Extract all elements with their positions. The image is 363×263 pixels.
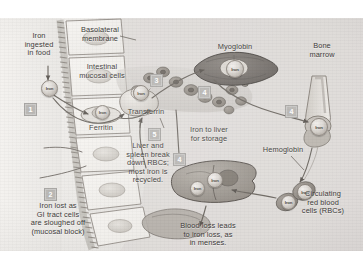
label-intestinal-mucosal-cells: Intestinal mucosal cells: [68, 63, 136, 80]
label-basolateral-membrane: Basolateral membrane: [66, 26, 134, 43]
label-iron-lost: Iron lost as GI tract cells are sloughed…: [0, 202, 116, 236]
step-marker-2: 2: [44, 188, 57, 201]
label-blood-loss: Blood loss leads to iron loss, as in men…: [163, 222, 253, 248]
label-circulating-rbcs: Circulating red blood cells (RBCs): [290, 190, 356, 216]
iron-particle-myoglobin: Iron: [226, 60, 244, 78]
label-hemoglobin: Hemoglobin: [252, 146, 314, 155]
iron-particle-food: Iron: [41, 80, 58, 97]
step-marker-4-marrow: 4: [285, 105, 298, 118]
label-ferritin: Ferritin: [74, 124, 128, 133]
iron-particle-transferrin: Iron: [133, 85, 149, 101]
label-bone-marrow: Bone marrow: [294, 42, 350, 59]
label-iron-ingested: Iron ingested in food: [10, 32, 68, 58]
step-marker-3: 3: [150, 74, 163, 87]
illustration-plate: Iron Iron Iron Iron Iron Iron Iron Iron …: [0, 18, 363, 251]
iron-particle-ferritin: Iron: [95, 105, 110, 120]
iron-particle-liver-a: Iron: [207, 172, 223, 188]
label-transferrin: Transferrin: [116, 108, 176, 117]
step-marker-5: 5: [148, 128, 161, 141]
label-myoglobin: Myoglobin: [204, 43, 266, 52]
iron-absorption-figure: Iron Iron Iron Iron Iron Iron Iron Iron …: [0, 0, 363, 263]
iron-particle-marrow: Iron: [310, 118, 328, 136]
label-iron-to-liver: Iron to liver for storage: [176, 126, 242, 143]
iron-particle-liver-b: Iron: [190, 181, 205, 196]
step-marker-4-liver: 4: [173, 153, 186, 166]
step-marker-1: 1: [24, 103, 37, 116]
label-liver-spleen: Liver and spleen break down RBCs; most i…: [118, 142, 178, 185]
step-marker-4-muscle: 4: [198, 86, 211, 99]
